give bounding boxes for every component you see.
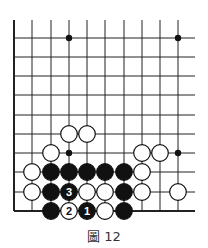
black-stone bbox=[116, 184, 133, 201]
black-stone bbox=[97, 164, 114, 181]
white-stone bbox=[43, 145, 60, 162]
go-board: 321 bbox=[0, 0, 208, 248]
move-number: 2 bbox=[66, 205, 72, 217]
black-stone bbox=[43, 203, 60, 220]
white-stone bbox=[61, 126, 78, 143]
black-stone bbox=[43, 184, 60, 201]
black-stone bbox=[116, 164, 133, 181]
white-stone bbox=[79, 126, 96, 143]
move-number: 1 bbox=[84, 205, 90, 217]
white-stone bbox=[97, 203, 114, 220]
white-stone bbox=[170, 184, 187, 201]
white-stone bbox=[152, 145, 169, 162]
white-stone bbox=[134, 164, 151, 181]
hoshi-point bbox=[66, 150, 72, 156]
black-stone bbox=[61, 164, 78, 181]
hoshi-point bbox=[175, 150, 181, 156]
white-stone bbox=[79, 184, 96, 201]
white-stone bbox=[97, 184, 114, 201]
white-stone bbox=[134, 145, 151, 162]
black-stone bbox=[43, 164, 60, 181]
black-stone bbox=[79, 164, 96, 181]
move-number: 3 bbox=[66, 186, 72, 198]
black-stone bbox=[116, 203, 133, 220]
hoshi-point bbox=[66, 35, 72, 41]
white-stone bbox=[134, 184, 151, 201]
figure-caption: 圖 12 bbox=[0, 226, 208, 245]
white-stone bbox=[24, 184, 41, 201]
white-stone bbox=[24, 164, 41, 181]
hoshi-point bbox=[175, 35, 181, 41]
